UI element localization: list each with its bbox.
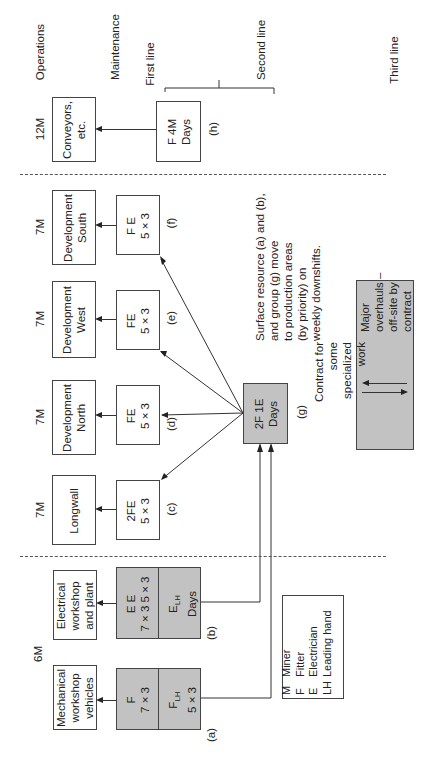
legend-item: EElectrician — [307, 595, 321, 695]
crew-label: 7M — [33, 207, 47, 247]
maint-box-d: FE 5 × 3 — [116, 385, 160, 445]
op-box-longwall: Longwall — [52, 475, 96, 545]
arrow-line — [362, 392, 402, 393]
tag-g: (g) — [294, 397, 308, 427]
contract-left-text: Contract for some specialized work — [312, 342, 368, 420]
tag-b: (b) — [204, 618, 218, 648]
legend-item: FFitter — [294, 595, 308, 695]
tag-d: (d) — [164, 409, 178, 439]
arrow-line — [367, 383, 407, 384]
operations-header: Operations — [33, 17, 47, 87]
maint-box-a-bottom: FLH 5 × 3 — [158, 668, 201, 730]
maint-box-h: F 4M Days — [156, 101, 201, 162]
maintenance-header: Maintenance — [108, 12, 122, 82]
third-line-label: Third line — [387, 25, 401, 95]
legend-item: LHLeading hand — [321, 595, 335, 695]
crew-label: 6M — [31, 634, 45, 674]
op-box-development-west: Development West — [52, 281, 96, 358]
dashed-separator — [20, 174, 386, 175]
arrow-up-icon — [362, 380, 369, 386]
arrow-down-icon — [401, 389, 408, 395]
note-text: Surface resource (a) and (b), and group … — [253, 161, 325, 341]
maint-box-b-bottom: ELH Days — [158, 567, 201, 639]
crew-label: 7M — [33, 397, 47, 437]
tag-f: (f) — [164, 208, 178, 238]
tag-h: (h) — [206, 114, 220, 144]
second-line-label: Second line — [254, 15, 268, 85]
maint-box-b-top: E E 7 × 3 5 × 3 — [116, 567, 159, 639]
crew-label: 7M — [33, 490, 47, 530]
tag-c: (c) — [164, 494, 178, 524]
maint-box-e: FE 5 × 3 — [116, 290, 160, 350]
maint-box-a-top: F 7 × 3 — [116, 668, 159, 730]
maint-box-c: 2FE 5 × 3 — [116, 480, 160, 540]
crew-label: 7M — [33, 299, 47, 339]
contract-right-text: Major overhauls – off-site by contract — [358, 250, 414, 332]
dashed-separator — [20, 556, 386, 557]
maint-box-g: 2F 1E Days — [243, 383, 288, 444]
first-line-label: First line — [143, 29, 157, 99]
maint-box-f: F E 5 × 3 — [116, 195, 160, 255]
tag-a: (a) — [204, 720, 218, 750]
tag-e: (e) — [164, 303, 178, 333]
op-box-development-south: Development South — [52, 190, 96, 265]
op-box-conveyors: Conveyors, etc. — [52, 97, 96, 162]
op-box-mechanical-workshop: Mechanical workshop vehicles — [53, 665, 97, 730]
legend-box: MMiner FFitter EElectrician LHLeading ha… — [282, 595, 344, 699]
op-box-electrical-workshop: Electrical workshop and plant — [53, 570, 97, 640]
contract-box: Contract for some specialized work Major… — [356, 280, 414, 450]
op-box-development-north: Development North — [52, 380, 96, 455]
legend-item: MMiner — [280, 595, 294, 695]
crew-label: 12M — [33, 109, 47, 149]
